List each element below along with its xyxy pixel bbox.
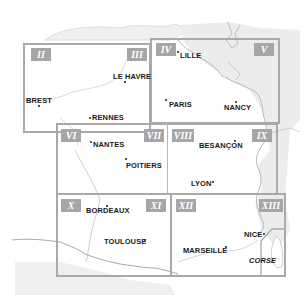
city-marker-poitiers [125, 158, 127, 160]
zone-tag-ix[interactable]: IX [252, 129, 272, 142]
inset-label-corse: CORSE [249, 256, 276, 265]
city-marker-paris [165, 99, 167, 101]
zone-tag-viii[interactable]: VIII [172, 129, 194, 142]
zone-tag-vi[interactable]: VI [61, 129, 81, 142]
zone-tag-xiii[interactable]: XIII [259, 199, 283, 212]
city-label-lille: LILLE [180, 51, 201, 60]
city-marker-le-havre [124, 81, 126, 83]
city-marker-nice [263, 233, 265, 235]
city-marker-lille [177, 51, 179, 53]
city-label-lyon: LYON [191, 179, 212, 188]
zone-tag-xii[interactable]: XII [176, 199, 196, 212]
zone-tag-x[interactable]: X [61, 199, 81, 212]
city-marker-lyon [212, 181, 214, 183]
city-marker-rennes [89, 117, 91, 119]
france-regions-map: II III IV V VI VII VIII IX X XI XII XIII… [0, 0, 308, 295]
city-label-brest: BREST [26, 96, 52, 105]
zone-tag-v[interactable]: V [254, 43, 274, 56]
zone-tag-iv[interactable]: IV [156, 43, 176, 56]
city-marker-nantes [90, 141, 92, 143]
zone-tag-ii[interactable]: II [31, 48, 51, 61]
city-label-toulouse: TOULOUSE [104, 237, 146, 246]
city-label-marseille: MARSEILLE [183, 246, 227, 255]
city-marker-brest [38, 105, 40, 107]
city-label-paris: PARIS [169, 100, 192, 109]
city-label-poitiers: POITIERS [126, 161, 162, 170]
city-label-nice: NICE [244, 230, 262, 239]
city-label-bordeaux: BORDEAUX [86, 206, 130, 215]
zone-tag-iii[interactable]: III [127, 48, 147, 61]
city-label-rennes: RENNES [92, 113, 124, 122]
zone-tag-xi[interactable]: XI [146, 199, 166, 212]
city-label-besancon: BESANÇON [199, 141, 243, 150]
city-label-nancy: NANCY [224, 103, 251, 112]
city-label-le-havre: LE HAVRE [113, 72, 151, 81]
zone-tag-vii[interactable]: VII [144, 129, 164, 142]
city-label-nantes: NANTES [93, 140, 124, 149]
